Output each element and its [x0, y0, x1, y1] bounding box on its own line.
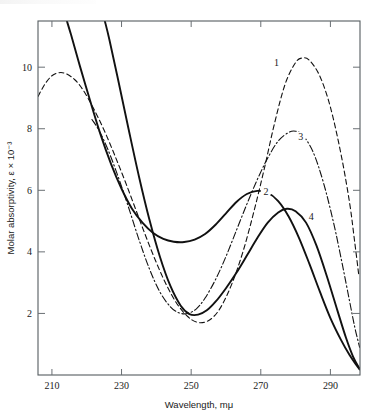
plot-background [38, 21, 360, 375]
x-tick-label: 210 [44, 380, 59, 391]
y-tick-label: 4 [27, 246, 32, 257]
y-tick-label: 2 [27, 308, 32, 319]
x-tick-label: 290 [323, 380, 338, 391]
curve-label-2: 2 [264, 186, 269, 197]
curve-label-4: 4 [309, 211, 314, 222]
x-tick-label: 230 [114, 380, 129, 391]
x-tick-label: 250 [184, 380, 199, 391]
curve-label-1: 1 [274, 57, 279, 68]
y-tick-label: 6 [27, 185, 32, 196]
chart-figure: 210230250270290246810 1234 Wavelength, m… [0, 0, 373, 419]
x-tick-label: 270 [253, 380, 268, 391]
y-axis-title: Molar absorptivity, ε × 10⁻³ [5, 142, 16, 255]
x-axis-title: Wavelength, mμ [165, 399, 233, 410]
curve-label-3: 3 [298, 131, 303, 142]
chart-plot-area: 210230250270290246810 1234 Wavelength, m… [0, 0, 373, 419]
y-tick-label: 10 [22, 62, 32, 73]
y-tick-label: 8 [27, 123, 32, 134]
